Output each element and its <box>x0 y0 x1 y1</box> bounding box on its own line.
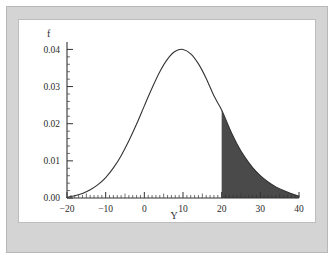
y-axis-title: f <box>47 28 51 39</box>
x-axis-tick-label: 10 <box>178 204 188 214</box>
x-axis-tick-label: 40 <box>294 204 304 214</box>
screenshot-root: −20−10010203040 0.000.010.020.030.04 f Y <box>0 0 334 265</box>
y-axis-tick-label: 0.04 <box>43 45 60 55</box>
density-curve <box>67 49 299 197</box>
y-axis-tick-label: 0.00 <box>43 193 60 203</box>
x-axis-tick-labels: −20−10010203040 <box>60 204 304 214</box>
y-axis-tick-label: 0.03 <box>43 82 60 92</box>
x-axis-tick-label: 20 <box>217 204 227 214</box>
x-axis-tick-label: 30 <box>256 204 266 214</box>
plot-card: −20−10010203040 0.000.010.020.030.04 f Y <box>18 19 316 223</box>
axes-group <box>67 42 299 198</box>
x-axis-tick-label: 0 <box>142 204 147 214</box>
y-axis-tick-label: 0.01 <box>43 156 60 166</box>
shaded-right-tail-area <box>222 110 299 198</box>
density-plot-figure: −20−10010203040 0.000.010.020.030.04 f Y <box>19 20 317 224</box>
x-axis-tick-label: −10 <box>98 204 113 214</box>
x-axis-tick-label: −20 <box>60 204 75 214</box>
y-axis-tick-labels: 0.000.010.020.030.04 <box>43 45 60 204</box>
y-axis-tick-label: 0.02 <box>43 119 60 129</box>
x-axis-title: Y <box>170 210 177 221</box>
